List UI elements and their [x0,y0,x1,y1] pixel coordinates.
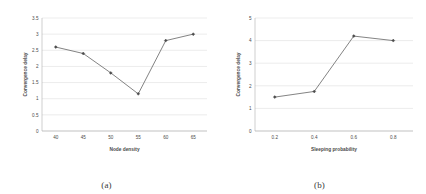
y-tick-label: 3.5 [32,16,39,21]
y-tick-label: 3 [36,32,39,37]
x-tick-label: 0.8 [390,135,397,140]
x-tick-label: 65 [191,135,197,140]
x-tick-label: 0.6 [351,135,358,140]
y-axis-title: Convergence delay [236,52,241,96]
chart-panel-b: 0123450.20.40.60.8Sleeping probabilityCo… [213,0,426,194]
x-tick-label: 50 [108,135,114,140]
y-tick-label: 2 [36,64,39,69]
data-point-marker [164,39,167,42]
x-tick-label: 55 [136,135,142,140]
x-tick-label: 60 [163,135,169,140]
y-tick-label: 1 [249,106,252,111]
figure-container: 00.511.522.533.5404550556065Node density… [0,0,426,194]
y-tick-label: 2.5 [32,48,39,53]
y-tick-label: 3 [249,61,252,66]
x-tick-label: 0.4 [311,135,318,140]
y-axis-title: Convergence delay [23,52,28,96]
x-tick-label: 0.2 [272,135,279,140]
y-tick-label: 0.5 [32,113,39,118]
line-chart-a: 00.511.522.533.5404550556065Node density… [0,0,213,170]
x-axis-title: Node density [109,147,139,152]
panel-b-caption: (b) [213,180,426,190]
y-tick-label: 0 [36,129,39,134]
data-point-marker [54,46,57,49]
x-tick-label: 40 [53,135,59,140]
chart-panel-a: 00.511.522.533.5404550556065Node density… [0,0,213,194]
y-tick-label: 1.5 [32,80,39,85]
data-point-marker [392,39,395,42]
data-point-marker [273,96,276,99]
y-tick-label: 5 [249,16,252,21]
y-tick-label: 2 [249,84,252,89]
data-point-marker [192,33,195,36]
y-tick-label: 1 [36,96,39,101]
panel-a-caption: (a) [0,180,213,190]
y-tick-label: 4 [249,38,252,43]
x-axis-title: Sleeping probability [311,147,357,152]
series-line [275,36,394,97]
y-tick-label: 0 [249,129,252,134]
line-chart-b: 0123450.20.40.60.8Sleeping probabilityCo… [213,0,426,170]
series-line [56,34,194,94]
x-tick-label: 45 [81,135,87,140]
